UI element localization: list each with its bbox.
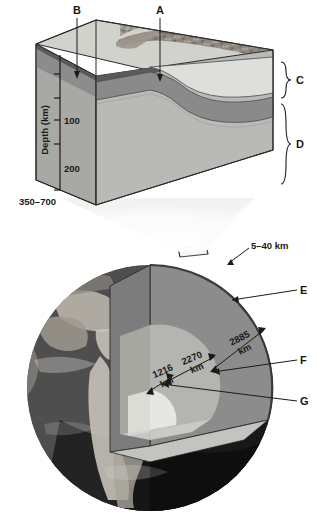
callout-F-label: F bbox=[300, 354, 307, 366]
depth-tick-200: 200 bbox=[64, 163, 80, 174]
crust-thickness-label: 5–40 km bbox=[251, 240, 289, 251]
earth-structure-figure: 100 200 350–700 Depth (km) A B C D bbox=[0, 0, 321, 521]
depth-axis-title: Depth (km) bbox=[39, 105, 50, 155]
callout-D-label: D bbox=[296, 138, 304, 150]
callout-A-label: A bbox=[156, 4, 164, 16]
depth-bottom-label: 350–700 bbox=[19, 196, 56, 207]
callout-B-label: B bbox=[73, 4, 81, 16]
callout-G-label: G bbox=[300, 395, 309, 407]
globe-inner-core-face bbox=[128, 390, 150, 436]
callout-C-label: C bbox=[296, 74, 304, 86]
depth-tick-100: 100 bbox=[64, 115, 80, 126]
callout-E-label: E bbox=[300, 284, 307, 296]
